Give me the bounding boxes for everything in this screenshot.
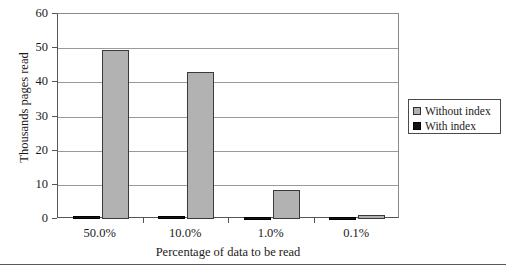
- y-tick-label: 30: [36, 109, 49, 124]
- legend-item-without-index: Without index: [413, 103, 500, 118]
- legend-label-with-index: With index: [425, 120, 476, 132]
- y-tick-mark: [52, 218, 57, 219]
- bar-with-index-50.0%: [73, 216, 100, 219]
- y-tick-label: 10: [36, 177, 49, 192]
- bar-without-index-0.1%: [358, 215, 385, 219]
- bar-with-index-10.0%: [158, 216, 185, 219]
- figure-caption: [0, 266, 506, 273]
- bar-without-index-50.0%: [102, 50, 129, 219]
- x-tick-mark: [228, 218, 229, 223]
- x-tick-label: 1.0%: [231, 226, 311, 241]
- legend-item-with-index: With index: [413, 118, 500, 133]
- y-tick-label: 50: [36, 40, 49, 55]
- x-tick-mark: [143, 218, 144, 223]
- bar-with-index-1.0%: [244, 217, 271, 220]
- caption-divider: [0, 264, 506, 265]
- x-tick-mark: [314, 218, 315, 223]
- y-tick-label: 20: [36, 143, 49, 158]
- black-swatch-icon: [413, 122, 421, 130]
- y-tick-label: 40: [36, 74, 49, 89]
- bar-with-index-0.1%: [329, 217, 356, 220]
- chart-legend: Without index With index: [408, 99, 501, 134]
- y-tick-label: 0: [42, 211, 48, 226]
- x-axis-title: Percentage of data to be read: [57, 245, 399, 260]
- x-tick-label: 0.1%: [316, 226, 396, 241]
- legend-label-without-index: Without index: [425, 105, 491, 117]
- figure-bar-chart: Thousands pages read 0102030405060 Perce…: [0, 0, 506, 273]
- plot-area: [57, 13, 399, 218]
- x-tick-label: 50.0%: [60, 226, 140, 241]
- x-tick-label: 10.0%: [145, 226, 225, 241]
- bar-without-index-10.0%: [187, 72, 214, 219]
- y-tick-label: 60: [36, 6, 49, 21]
- gray-swatch-icon: [413, 107, 421, 115]
- bar-without-index-1.0%: [273, 190, 300, 219]
